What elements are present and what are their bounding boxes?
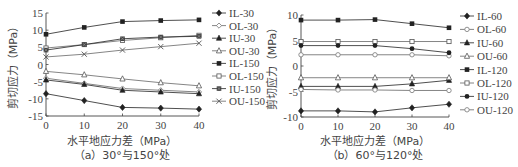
legend-label: IU-150 <box>229 83 261 95</box>
data-point-marker-icon <box>372 75 377 80</box>
data-point-marker-icon <box>120 36 125 41</box>
data-point-marker-icon <box>410 21 415 26</box>
legend-item-iu-60: IU-60 <box>460 37 504 49</box>
legend-marker-icon <box>216 10 221 16</box>
data-point-marker-icon <box>409 105 414 111</box>
data-point-marker-icon <box>409 75 414 80</box>
legend-label: IL-150 <box>229 57 260 69</box>
y-tick-label: 0 <box>293 60 299 72</box>
axes: 1050-5-10010203040 <box>283 9 455 132</box>
y-tick-label: 10 <box>32 24 44 36</box>
legend-label: IU-120 <box>477 90 509 102</box>
y-tick-label: -10 <box>283 111 298 123</box>
data-point-marker-icon <box>336 18 341 23</box>
data-point-marker-icon <box>158 35 163 40</box>
y-axis-title: 剪切应力（MPa） <box>6 21 20 109</box>
chart-b-canvas: 1050-5-10010203040剪切应力（MPa）水平地应力差（MPa）（b… <box>259 0 518 167</box>
data-point-marker-icon <box>447 25 452 30</box>
x-tick-label: 30 <box>407 120 419 132</box>
legend-label: IU-30 <box>229 32 256 44</box>
legend-marker-icon <box>465 81 469 85</box>
chart-panel-b: 1050-5-10010203040剪切应力（MPa）水平地应力差（MPa）（b… <box>259 0 518 167</box>
data-point-marker-icon <box>299 53 303 57</box>
y-tick-label: 0 <box>38 59 44 71</box>
legend-label: OL-30 <box>229 20 259 32</box>
x-tick-label: 20 <box>117 119 129 131</box>
data-point-marker-icon <box>336 39 340 43</box>
data-point-marker-icon <box>336 88 340 92</box>
data-point-marker-icon <box>410 88 414 92</box>
chart-a-canvas: 151050-5-10-15010203040剪切应力（MPa）水平地应力差（M… <box>0 0 259 167</box>
data-point-marker-icon <box>373 43 378 48</box>
legend-marker-icon <box>464 40 469 45</box>
data-point-marker-icon <box>299 18 304 23</box>
series-ou-150 <box>43 41 201 60</box>
data-point-marker-icon <box>410 46 415 51</box>
data-point-marker-icon <box>410 39 414 43</box>
legend-item-iu-30: IU-30 <box>212 32 256 44</box>
y-tick-label: -15 <box>28 110 43 122</box>
data-point-marker-icon <box>373 53 377 57</box>
data-point-marker-icon <box>120 104 125 110</box>
y-tick-label: -5 <box>34 76 44 88</box>
legend-item-ou-150: OU-150 <box>212 95 266 107</box>
chart-panel-a: 151050-5-10-15010203040剪切应力（MPa）水平地应力差（M… <box>0 0 259 167</box>
data-point-marker-icon <box>446 75 451 80</box>
legend-item-iu-150: IU-150 <box>212 83 261 95</box>
legend-label: OL-120 <box>477 77 512 89</box>
y-tick-label: -10 <box>28 93 43 105</box>
series-il-60 <box>298 101 451 115</box>
series-ou-60 <box>298 75 451 80</box>
legend-item-ol-150: OL-150 <box>212 70 264 82</box>
legend-marker-icon <box>465 94 470 99</box>
legend-marker-icon <box>465 108 469 112</box>
data-point-marker-icon <box>197 18 202 23</box>
legend-marker-icon <box>217 86 222 91</box>
data-point-marker-icon <box>447 50 452 55</box>
data-point-marker-icon <box>158 105 163 111</box>
series-ou-120 <box>299 87 451 92</box>
x-tick-label: 10 <box>79 119 91 131</box>
legend-item-ol-60: OL-60 <box>460 23 507 35</box>
data-point-marker-icon <box>410 53 414 57</box>
chart-caption: （a）30°与150°处 <box>74 149 171 162</box>
legend-marker-icon <box>464 13 469 19</box>
data-point-marker-icon <box>82 97 87 103</box>
legend-item-iu-120: IU-120 <box>460 90 509 102</box>
legend-label: OU-120 <box>477 104 514 116</box>
legend-marker-icon <box>217 61 222 66</box>
legend-item-il-120: IL-120 <box>460 64 508 76</box>
legend-label: IL-120 <box>477 64 508 76</box>
legend-marker-icon <box>464 53 469 58</box>
data-point-marker-icon <box>44 32 49 37</box>
legend-item-il-60: IL-60 <box>460 10 503 22</box>
data-point-marker-icon <box>298 108 303 114</box>
legend-label: IU-60 <box>477 37 504 49</box>
data-point-marker-icon <box>447 39 451 43</box>
x-tick-label: 30 <box>155 119 167 131</box>
legend-item-ol-30: OL-30 <box>212 20 259 32</box>
data-point-marker-icon <box>373 17 378 22</box>
data-point-marker-icon <box>447 88 451 92</box>
legend-item-ou-30: OU-30 <box>212 45 260 57</box>
y-tick-label: 15 <box>32 7 44 19</box>
legend-marker-icon <box>217 74 221 78</box>
legend-marker-icon <box>465 27 469 31</box>
data-point-marker-icon <box>197 34 202 39</box>
data-point-marker-icon <box>336 53 340 57</box>
x-tick-label: 0 <box>43 119 49 131</box>
data-point-marker-icon <box>373 39 377 43</box>
legend-marker-icon <box>465 67 470 72</box>
legend-label: OU-30 <box>229 45 260 57</box>
x-tick-label: 10 <box>333 120 345 132</box>
data-point-marker-icon <box>44 48 49 53</box>
y-tick-label: 10 <box>287 9 299 21</box>
legend-label: IL-30 <box>229 7 255 19</box>
data-point-marker-icon <box>43 68 48 73</box>
legend-marker-icon <box>216 35 221 40</box>
y-tick-label: 5 <box>38 41 44 53</box>
x-axis-title: 水平地应力差（MPa） <box>320 134 430 148</box>
series-il-30 <box>43 91 201 113</box>
data-point-marker-icon <box>335 108 340 114</box>
data-point-marker-icon <box>158 18 163 23</box>
